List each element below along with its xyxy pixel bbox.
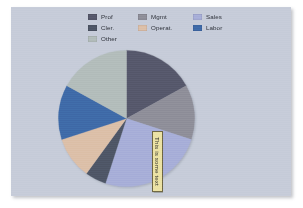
legend-label-prof: Prof: [101, 13, 113, 20]
legend-item-other[interactable]: Other: [88, 34, 138, 43]
legend-item-mgmt[interactable]: Mgmt: [138, 12, 193, 21]
legend-swatch-operat: [138, 25, 147, 31]
legend-label-sales: Sales: [206, 13, 222, 20]
legend-label-mgmt: Mgmt: [151, 13, 167, 20]
legend-label-labor: Labor: [206, 24, 222, 31]
legend-label-cler: Cler.: [101, 24, 114, 31]
legend-item-cler[interactable]: Cler.: [88, 23, 138, 32]
legend-item-operat[interactable]: Operat.: [138, 23, 193, 32]
legend-swatch-sales: [193, 14, 202, 20]
legend-label-operat: Operat.: [151, 24, 172, 31]
legend-item-labor[interactable]: Labor: [193, 23, 243, 32]
annotation-callout-text: This is some text: [154, 137, 161, 186]
legend-column-1: Prof Cler. Other: [88, 12, 138, 45]
legend-swatch-mgmt: [138, 14, 147, 20]
legend-label-other: Other: [101, 35, 117, 42]
legend-column-3: Sales Labor: [193, 12, 243, 45]
legend-swatch-other: [88, 36, 97, 42]
legend-column-2: Mgmt Operat.: [138, 12, 193, 45]
pie-chart: [57, 49, 196, 188]
chart-legend: Prof Cler. Other Mgmt Operat.: [88, 12, 248, 45]
annotation-callout[interactable]: This is some text: [152, 131, 163, 192]
chart-panel: Prof Cler. Other Mgmt Operat.: [11, 7, 291, 196]
legend-swatch-prof: [88, 14, 97, 20]
pie-chart-svg: [57, 49, 196, 188]
pie-slice-group: [58, 50, 194, 186]
legend-item-prof[interactable]: Prof: [88, 12, 138, 21]
legend-swatch-labor: [193, 25, 202, 31]
legend-swatch-cler: [88, 25, 97, 31]
legend-item-sales[interactable]: Sales: [193, 12, 243, 21]
